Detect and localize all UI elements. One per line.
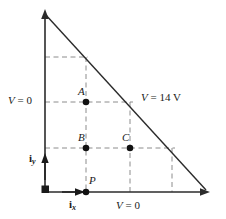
label-point-b: B: [78, 132, 85, 143]
label-point-c: C: [122, 132, 129, 143]
node-dot-a: [83, 99, 90, 106]
basis-vector-ix-arrow: [62, 188, 85, 195]
label-potential-bottom-value: = 0: [125, 199, 139, 211]
origin-square-marker: [42, 186, 50, 194]
dashed-grid: [45, 57, 175, 192]
label-basis-vector-ix: ix: [69, 199, 76, 210]
label-basis-vector-ix-subscript: x: [72, 203, 76, 212]
label-potential-bottom: V = 0: [116, 200, 140, 211]
diagram-canvas: [0, 0, 226, 219]
hypotenuse-boundary: [45, 14, 206, 190]
label-basis-vector-iy-subscript: y: [32, 157, 36, 166]
label-basis-vector-iy: iy: [29, 153, 36, 164]
node-dot-b: [83, 145, 90, 152]
node-dot-c: [127, 145, 134, 152]
node-dot-p: [83, 189, 90, 196]
y-axis-arrowhead: [41, 9, 49, 19]
label-potential-left: V = 0: [8, 95, 32, 106]
label-potential-hypotenuse-symbol: V: [141, 91, 148, 103]
label-point-p: P: [89, 175, 96, 186]
label-potential-bottom-symbol: V: [116, 199, 123, 211]
triangular-potential-diagram: A B C P V = 0 V = 14 V V = 0 iy ix: [0, 0, 226, 219]
label-potential-hypotenuse-value: = 14 V: [150, 91, 180, 103]
basis-vector-iy-arrow: [41, 153, 48, 180]
label-potential-hypotenuse: V = 14 V: [141, 92, 181, 103]
label-potential-left-symbol: V: [8, 94, 15, 106]
label-point-a: A: [78, 86, 85, 97]
label-potential-left-value: = 0: [17, 94, 31, 106]
